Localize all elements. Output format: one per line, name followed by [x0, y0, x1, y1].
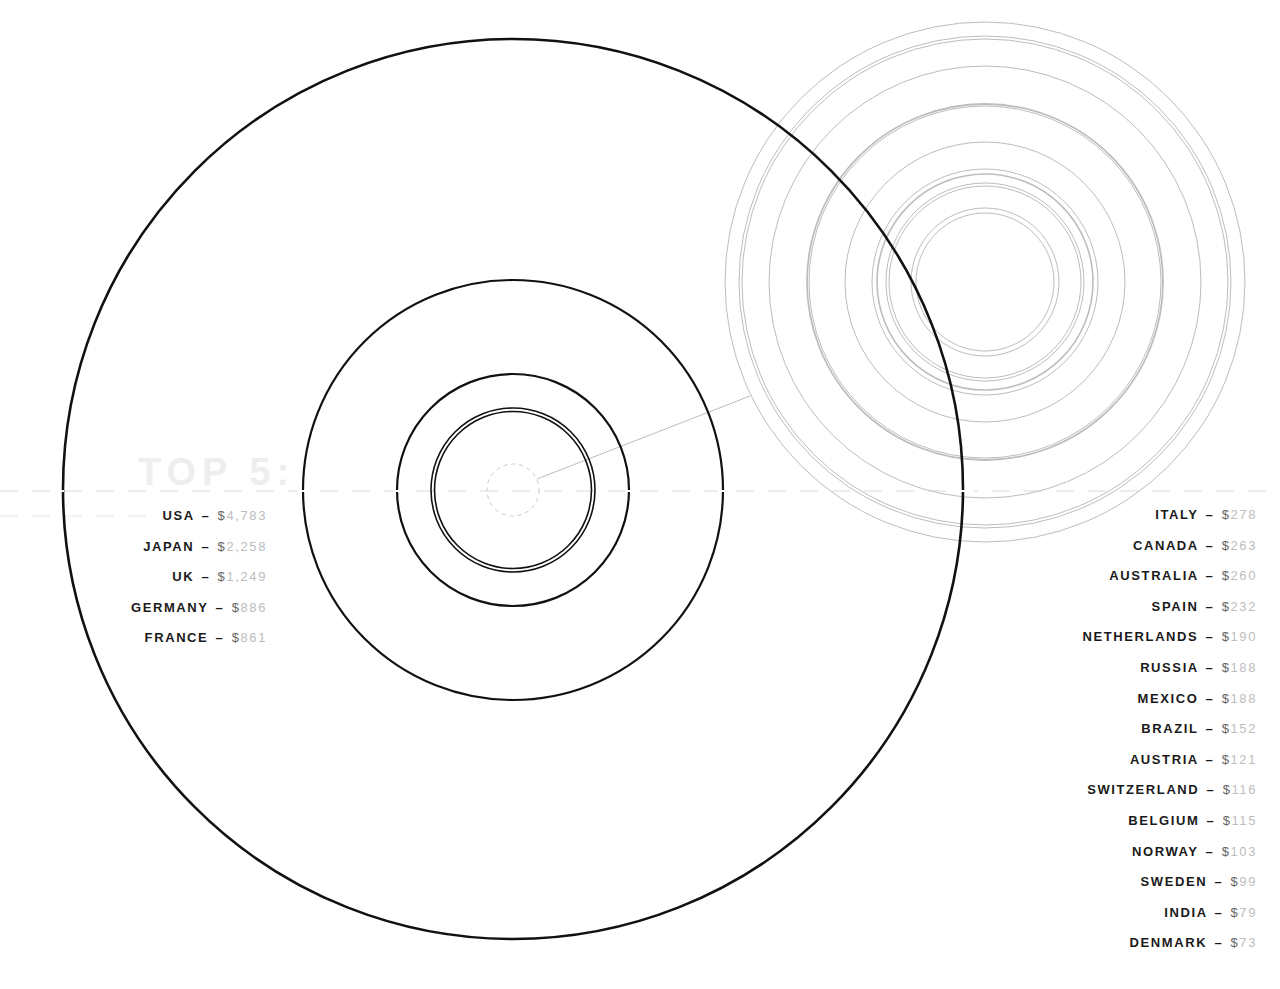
others-ring-cluster	[725, 22, 1245, 542]
legend-item: AUSTRIA – $121	[1083, 745, 1257, 776]
legend-item: CANADA – $263	[1083, 531, 1257, 562]
legend-item: MEXICO – $188	[1083, 684, 1257, 715]
legend-item: UK – $1,249	[131, 562, 267, 593]
ring-norway	[911, 208, 1059, 356]
legend-item: AUSTRALIA – $260	[1083, 561, 1257, 592]
legend-item: NORWAY – $103	[1083, 837, 1257, 868]
legend-item: BRAZIL – $152	[1083, 714, 1257, 745]
legend-item: ITALY – $278	[1083, 500, 1257, 531]
legend-item: FRANCE – $861	[131, 623, 267, 654]
top5-heading: TOP 5:	[138, 452, 295, 492]
ring-brazil	[872, 169, 1098, 395]
legend-item: SWITZERLAND – $116	[1083, 775, 1257, 806]
ring-italy	[725, 22, 1245, 542]
ring-belgium	[889, 186, 1081, 378]
legend-item: JAPAN – $2,258	[131, 532, 267, 563]
legend-item: GERMANY – $886	[131, 593, 267, 624]
legend-item: DENMARK – $73	[1083, 928, 1257, 959]
ring-australia	[742, 39, 1228, 525]
ring-canada	[739, 36, 1231, 528]
legend-item: NETHERLANDS – $190	[1083, 622, 1257, 653]
top5-legend-list: USA – $4,783 JAPAN – $2,258 UK – $1,249 …	[131, 501, 267, 654]
ring-mexico	[845, 142, 1125, 422]
ring-spain	[769, 66, 1201, 498]
legend-item: RUSSIA – $188	[1083, 653, 1257, 684]
others-legend-list: ITALY – $278 CANADA – $263 AUSTRALIA – $…	[1083, 500, 1257, 959]
ring-france	[435, 412, 592, 569]
ring-sweden	[916, 213, 1054, 351]
legend-item: SPAIN – $232	[1083, 592, 1257, 623]
ring-austria	[877, 174, 1093, 390]
legend-item: INDIA – $79	[1083, 898, 1257, 929]
ring-russia	[809, 106, 1161, 458]
ring-japan	[303, 280, 723, 700]
legend-item: BELGIUM – $115	[1083, 806, 1257, 837]
ring-germany	[431, 408, 595, 572]
legend-item: SWEDEN – $99	[1083, 867, 1257, 898]
connector-line	[537, 396, 750, 479]
legend-item: USA – $4,783	[131, 501, 267, 532]
magnifier-dashed-circle	[487, 464, 539, 516]
